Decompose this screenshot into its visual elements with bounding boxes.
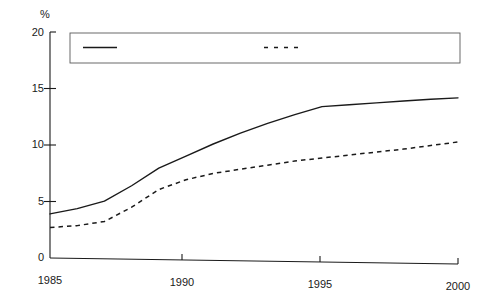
chart-plot-area: [0, 0, 492, 306]
series-line-home-electrical-appliances: [50, 142, 458, 228]
series-line-audio-visual-equipment: [50, 98, 458, 214]
series-group: [50, 98, 458, 228]
legend-box: [70, 33, 460, 63]
x-axis-line: [50, 258, 458, 264]
chart-figure: % 20 15 10 5 0 1985 1990 1995 2000 Audio…: [0, 0, 492, 306]
axes: [50, 32, 458, 264]
